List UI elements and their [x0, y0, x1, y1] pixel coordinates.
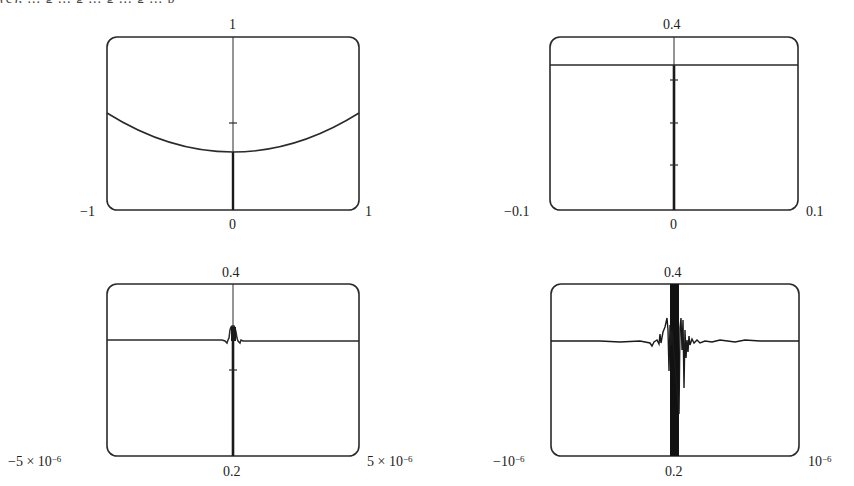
panel-2-x-min-label: −0.1	[504, 205, 529, 219]
panel-4-x-min-label: −10−6	[493, 455, 524, 469]
panel-2-x-center-label: 0	[670, 218, 677, 232]
panel-2-y-top-label: 0.4	[663, 18, 681, 32]
panel-3-x-max-label: 5 × 10−6	[367, 455, 412, 469]
panel-4-band	[670, 284, 679, 456]
panel-4-y-top-label: 0.4	[664, 266, 682, 280]
panel-4-x-center-label: 0.2	[665, 465, 683, 479]
panel-2-x-max-label: 0.1	[806, 205, 824, 219]
panel-4-x-max-label: 10−6	[808, 455, 832, 469]
panel-4-plot	[551, 284, 799, 456]
panel-1-x-min-label: −1	[80, 205, 95, 219]
panel-1-plot	[107, 37, 359, 210]
panel-1-y-top-label: 1	[229, 18, 236, 32]
panel-1-x-center-label: 0	[229, 218, 236, 232]
panel-2-plot	[550, 37, 798, 210]
panel-3-y-top-label: 0.4	[222, 266, 240, 280]
panel-3-x-center-label: 0.2	[223, 465, 241, 479]
panel-3-plot	[107, 284, 359, 456]
plot-canvas	[0, 0, 854, 486]
panel-3-x-min-label: −5 × 10−6	[8, 455, 61, 469]
panel-1-x-max-label: 1	[365, 205, 372, 219]
